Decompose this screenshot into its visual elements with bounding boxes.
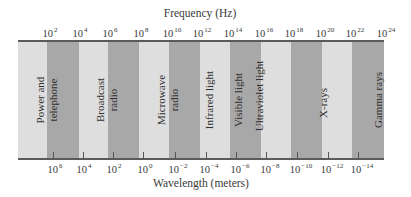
- region-label-gamma: Gamma rays: [372, 72, 385, 128]
- wavelength-tick: 10−14: [351, 163, 373, 176]
- tick-mark: [206, 152, 207, 158]
- wavelength-tick: 104: [77, 163, 92, 176]
- tick-mark: [143, 152, 144, 158]
- tick-mark: [113, 152, 114, 158]
- tick-mark: [328, 152, 329, 158]
- frequency-tick: 106: [103, 27, 118, 40]
- frequency-tick: 104: [73, 27, 88, 40]
- region-label-broadcast-radio: Broadcastradio: [94, 78, 120, 122]
- region-label-microwave-radio: Microwaveradio: [155, 75, 181, 125]
- wavelength-axis-title: Wavelength (meters): [153, 177, 249, 189]
- region-label-power-telephone: Power andtelephone: [34, 77, 60, 124]
- frequency-axis-title: Frequency (Hz): [164, 7, 236, 19]
- wavelength-tick: 10−12: [321, 163, 343, 176]
- frequency-tick: 1022: [346, 27, 365, 40]
- frequency-tick: 1012: [193, 27, 212, 40]
- wavelength-tick: 10−10: [290, 163, 312, 176]
- wavelength-tick: 10−4: [200, 163, 219, 176]
- frequency-tick: 102: [43, 27, 58, 40]
- frequency-tick: 1014: [224, 27, 243, 40]
- region-label-xrays: X-rays: [317, 88, 330, 118]
- frequency-tick: 1024: [377, 27, 396, 40]
- region-label-infrared: Infrared light: [203, 71, 216, 129]
- region-label-ultraviolet: Ultraviolet light: [253, 61, 266, 132]
- tick-mark: [266, 152, 267, 158]
- wavelength-tick: 10−6: [231, 163, 250, 176]
- wavelength-tick: 106: [48, 163, 63, 176]
- tick-mark: [175, 152, 176, 158]
- frequency-tick: 1016: [255, 27, 274, 40]
- tick-mark: [83, 152, 84, 158]
- spectrum-bottom-border: [18, 158, 384, 160]
- frequency-tick: 108: [134, 27, 149, 40]
- wavelength-tick: 10−2: [169, 163, 188, 176]
- frequency-tick: 1010: [163, 27, 182, 40]
- frequency-tick: 1018: [285, 27, 304, 40]
- region-label-visible: Visible light: [232, 73, 245, 127]
- tick-mark: [53, 152, 54, 158]
- tick-mark: [358, 152, 359, 158]
- wavelength-tick: 100: [138, 163, 153, 176]
- frequency-tick: 1020: [316, 27, 335, 40]
- wavelength-tick: 10−8: [261, 163, 280, 176]
- band-light: [261, 41, 291, 159]
- wavelength-tick: 102: [107, 163, 122, 176]
- tick-mark: [236, 152, 237, 158]
- tick-mark: [297, 152, 298, 158]
- spectrum-top-border: [18, 40, 384, 42]
